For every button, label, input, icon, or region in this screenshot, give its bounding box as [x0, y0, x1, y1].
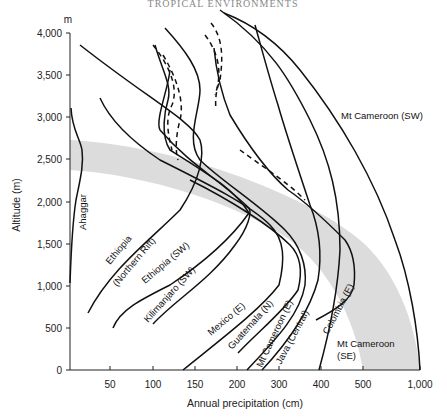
svg-text:500: 500: [355, 379, 372, 390]
svg-text:3,500: 3,500: [37, 70, 62, 81]
curve-mexico-e: [100, 98, 283, 370]
y-ticks: 0 500 1,000 1,500 2,000 2,500 3,000 3,50…: [37, 14, 72, 376]
label-ahaggar: Ahaggar: [77, 194, 88, 230]
svg-text:500: 500: [45, 323, 62, 334]
svg-text:2,000: 2,000: [37, 197, 62, 208]
svg-text:3,000: 3,000: [37, 112, 62, 123]
svg-text:150: 150: [187, 379, 204, 390]
svg-text:1,000: 1,000: [37, 281, 62, 292]
page-header: TROPICAL ENVIRONMENTS: [148, 0, 299, 9]
svg-text:200: 200: [229, 379, 246, 390]
svg-text:100: 100: [145, 379, 162, 390]
svg-text:300: 300: [271, 379, 288, 390]
label-mt-cameroon-sw: Mt Cameroon (SW): [341, 110, 423, 121]
svg-text:1,500: 1,500: [37, 239, 62, 250]
svg-text:2,500: 2,500: [37, 154, 62, 165]
svg-text:50: 50: [104, 379, 116, 390]
x-axis-title: Annual precipitation (cm): [187, 397, 303, 409]
svg-text:4,000: 4,000: [37, 28, 62, 39]
label-mt-cameroon-se-line1: Mt Cameroon: [337, 338, 395, 349]
svg-text:0: 0: [56, 365, 62, 376]
svg-text:1,000: 1,000: [407, 379, 432, 390]
y-unit-label: m: [64, 14, 72, 25]
svg-text:400: 400: [313, 379, 330, 390]
altitude-precipitation-chart: TROPICAL ENVIRONMENTS 0 500 1,000 1,500 …: [0, 0, 447, 419]
y-axis-title: Altitude (m): [10, 178, 22, 232]
label-mt-cameroon-se-line2: (SE): [337, 350, 356, 361]
